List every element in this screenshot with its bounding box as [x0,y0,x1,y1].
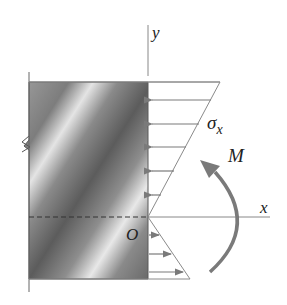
bending-stress-diagram: y x O σx M [0,0,287,305]
moment-label: M [227,145,245,166]
y-axis-label: y [150,23,160,42]
x-axis-label: x [259,198,268,217]
compressive-stress-arrows [152,100,211,195]
tensile-stress-triangle [148,217,190,279]
compressive-stress-triangle [148,82,220,217]
origin-label: O [126,225,138,244]
tensile-stress-arrows [149,235,183,272]
stress-label: σx [207,112,223,137]
beam-section [24,82,148,279]
moment-arc [210,172,237,272]
